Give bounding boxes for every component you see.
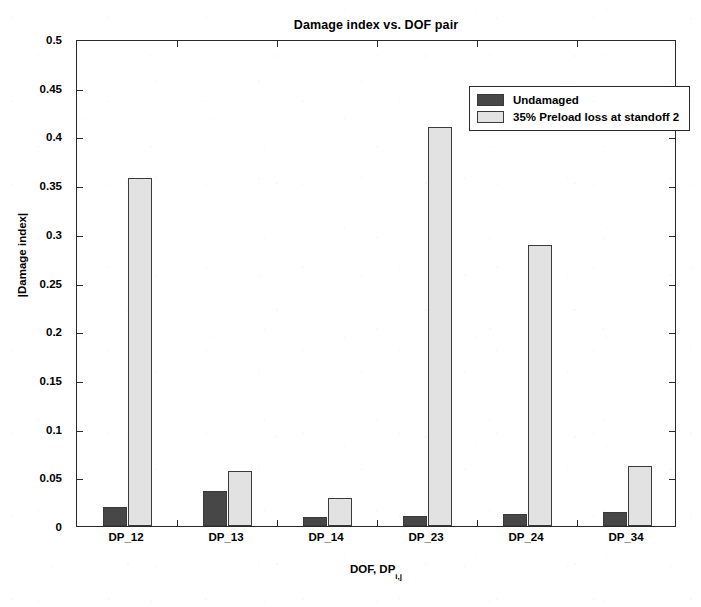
x-axis-tick-mark xyxy=(277,520,278,526)
y-axis-tick-mark xyxy=(77,479,83,480)
y-axis-tick-mark xyxy=(669,479,675,480)
bar-dp_24-undamaged xyxy=(503,514,527,526)
y-axis-tick-label: 0.05 xyxy=(40,472,62,484)
x-axis-tick-label: DP_24 xyxy=(508,531,543,543)
page-title: Damage index vs. DOF pair xyxy=(76,18,676,32)
x-axis-tick-label: DP_12 xyxy=(108,531,143,543)
x-axis-tick-label: DP_13 xyxy=(208,531,243,543)
legend-label-preload-loss: 35% Preload loss at standoff 2 xyxy=(513,111,679,123)
x-axis-tick-mark xyxy=(277,41,278,47)
y-axis-tick-label: 0.4 xyxy=(46,131,62,143)
bar-dp_12-undamaged xyxy=(103,507,127,526)
x-axis-tick-mark xyxy=(177,520,178,526)
plot-area: Undamaged 35% Preload loss at standoff 2 xyxy=(76,40,676,527)
bar-dp_23-preload-loss xyxy=(428,127,452,526)
x-axis-tick-label: DP_23 xyxy=(408,531,443,543)
x-axis-tick-mark xyxy=(177,41,178,47)
bar-dp_13-preload-loss xyxy=(228,471,252,526)
y-axis-tick-mark xyxy=(77,90,83,91)
list-item: 35% Preload loss at standoff 2 xyxy=(477,108,679,125)
bar-dp_13-undamaged xyxy=(203,491,227,526)
y-axis-tick-mark xyxy=(77,382,83,383)
chart-legend: Undamaged 35% Preload loss at standoff 2 xyxy=(469,86,690,131)
x-axis-title: DOF, DPi,j xyxy=(76,563,676,578)
list-item: Undamaged xyxy=(477,91,679,108)
y-axis-title: |Damage index| xyxy=(16,155,28,355)
y-axis-tick-label: 0.2 xyxy=(46,326,62,338)
y-axis-tick-labels: 00.050.10.150.20.250.30.350.40.450.5 xyxy=(0,40,70,527)
y-axis-tick-mark xyxy=(669,138,675,139)
y-axis-tick-mark xyxy=(669,187,675,188)
y-axis-tick-mark xyxy=(669,431,675,432)
y-axis-tick-mark xyxy=(77,187,83,188)
x-axis-tick-mark xyxy=(477,41,478,47)
y-axis-tick-mark xyxy=(77,285,83,286)
bar-dp_24-preload-loss xyxy=(528,245,552,526)
x-axis-tick-mark xyxy=(577,41,578,47)
figure-canvas: Damage index vs. DOF pair 00.050.10.150.… xyxy=(0,0,701,607)
y-axis-tick-mark xyxy=(669,285,675,286)
x-axis-tick-labels: DP_12DP_13DP_14DP_23DP_24DP_34 xyxy=(76,531,676,551)
y-axis-tick-mark xyxy=(77,333,83,334)
bar-dp_12-preload-loss xyxy=(128,178,152,526)
y-axis-tick-label: 0.15 xyxy=(40,375,62,387)
x-axis-tick-label: DP_14 xyxy=(308,531,343,543)
y-axis-tick-label: 0.35 xyxy=(40,180,62,192)
legend-swatch-undamaged xyxy=(477,94,504,106)
x-axis-title-subscript: i,j xyxy=(395,572,402,581)
x-axis-tick-mark xyxy=(477,520,478,526)
bar-dp_34-preload-loss xyxy=(628,466,652,526)
x-axis-title-text: DOF, DP xyxy=(350,563,395,575)
x-axis-tick-mark xyxy=(377,41,378,47)
bar-dp_23-undamaged xyxy=(403,516,427,526)
y-axis-tick-mark xyxy=(669,382,675,383)
y-axis-tick-label: 0.3 xyxy=(46,229,62,241)
y-axis-tick-label: 0.45 xyxy=(40,83,62,95)
x-axis-tick-label: DP_34 xyxy=(608,531,643,543)
y-axis-tick-label: 0.25 xyxy=(40,278,62,290)
bar-dp_14-preload-loss xyxy=(328,498,352,526)
y-axis-tick-label: 0.1 xyxy=(46,424,62,436)
x-axis-tick-mark xyxy=(577,520,578,526)
y-axis-tick-mark xyxy=(669,333,675,334)
bar-dp_34-undamaged xyxy=(603,512,627,526)
y-axis-tick-mark xyxy=(77,138,83,139)
y-axis-tick-mark xyxy=(669,236,675,237)
x-axis-tick-mark xyxy=(377,520,378,526)
legend-label-undamaged: Undamaged xyxy=(513,94,579,106)
y-axis-tick-mark xyxy=(77,431,83,432)
legend-swatch-preload-loss xyxy=(477,111,504,123)
bar-dp_14-undamaged xyxy=(303,517,327,526)
y-axis-tick-label: 0 xyxy=(56,521,62,533)
y-axis-tick-mark xyxy=(77,236,83,237)
y-axis-tick-label: 0.5 xyxy=(46,34,62,46)
